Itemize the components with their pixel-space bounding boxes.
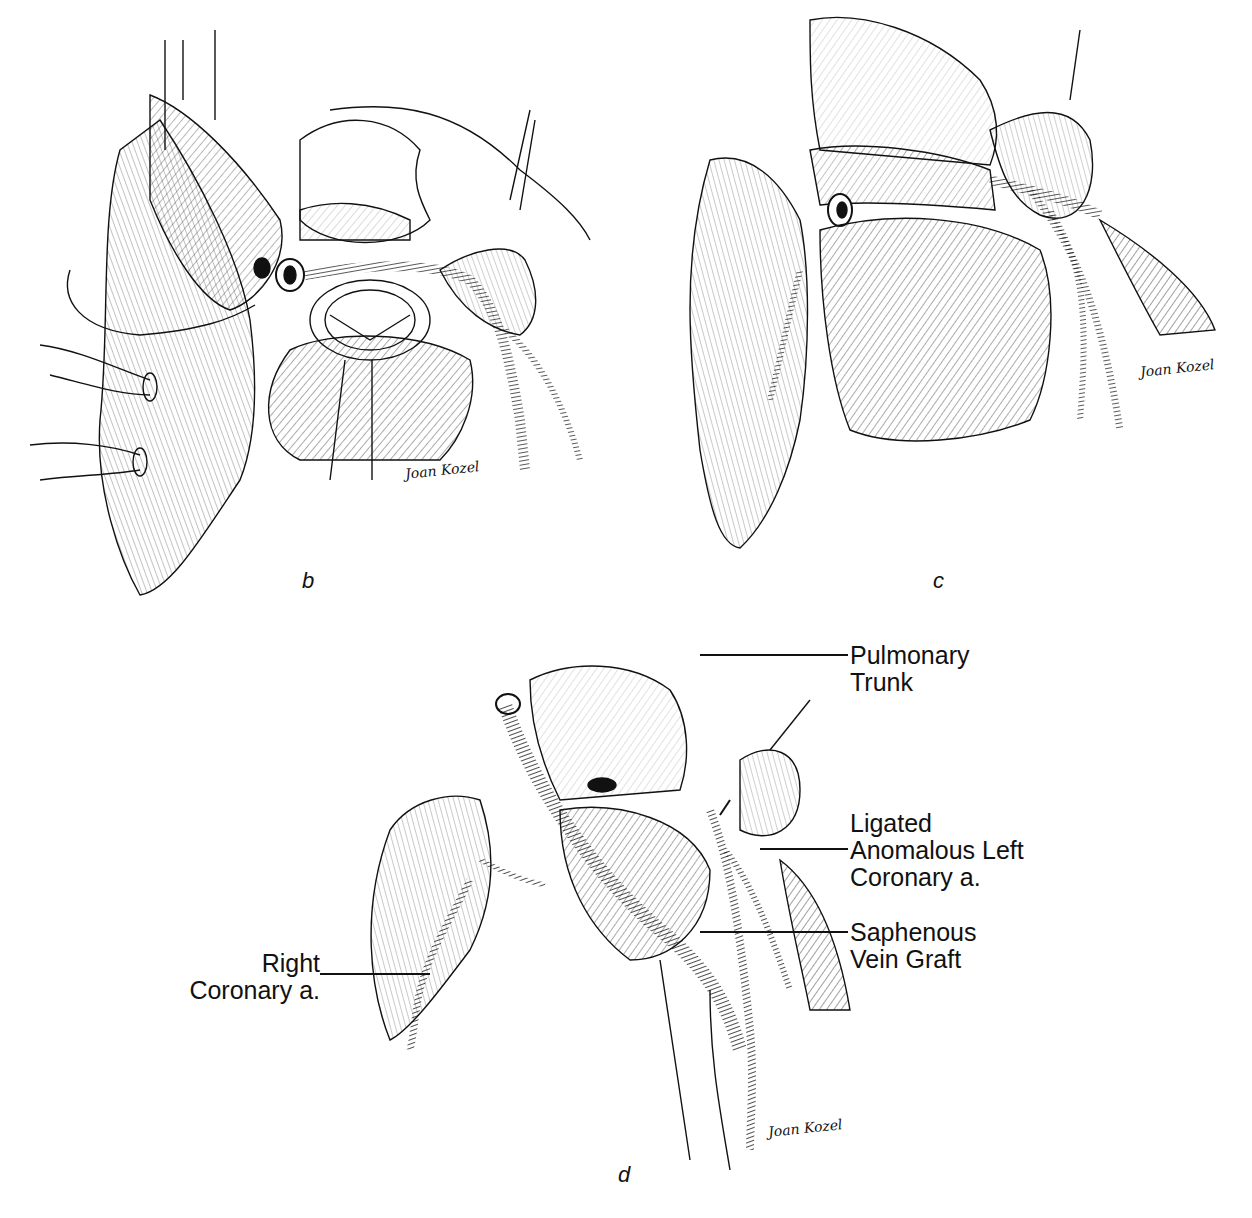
panel-label-b: b — [302, 568, 314, 594]
panel-d: Joan Kozel — [330, 630, 890, 1190]
leader-ligated-left-coronary — [760, 848, 848, 850]
leader-pulmonary-trunk — [700, 654, 848, 656]
panel-c-illustration — [660, 0, 1252, 610]
callout-ligated-line1: Ligated — [850, 810, 1024, 837]
panel-b-illustration — [0, 0, 620, 610]
panel-d-illustration — [330, 630, 890, 1190]
callout-pulmonary-trunk-line2: Trunk — [850, 669, 970, 696]
callout-right-coronary-line1: Right — [150, 950, 320, 977]
panel-c: Joan Kozel c — [660, 0, 1252, 610]
callout-ligated-line2: Anomalous Left — [850, 837, 1024, 864]
panel-label-d: d — [618, 1162, 630, 1188]
callout-saphenous-line2: Vein Graft — [850, 946, 977, 973]
callout-pulmonary-trunk-line1: Pulmonary — [850, 642, 970, 669]
callout-ligated-left-coronary: Ligated Anomalous Left Coronary a. — [850, 810, 1024, 891]
leader-saphenous-vein-graft — [700, 931, 848, 933]
callout-right-coronary: Right Coronary a. — [150, 950, 320, 1004]
callout-pulmonary-trunk: Pulmonary Trunk — [850, 642, 970, 696]
leader-right-coronary — [320, 973, 430, 975]
callout-saphenous-vein-graft: Saphenous Vein Graft — [850, 919, 977, 973]
callout-ligated-line3: Coronary a. — [850, 864, 1024, 891]
callout-right-coronary-line2: Coronary a. — [150, 977, 320, 1004]
callout-saphenous-line1: Saphenous — [850, 919, 977, 946]
panel-b: Joan Kozel b — [0, 0, 620, 610]
panel-label-c: c — [933, 568, 944, 594]
